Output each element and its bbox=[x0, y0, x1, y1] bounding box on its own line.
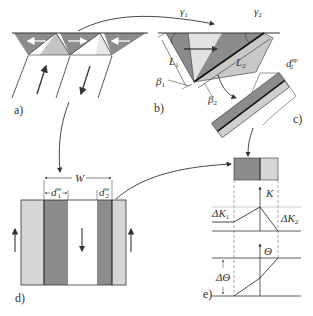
wall-phase-1 bbox=[44, 200, 68, 285]
svg-text:ΔK2: ΔK2 bbox=[280, 212, 299, 226]
W-label: W bbox=[75, 172, 85, 184]
panel-d-label: d) bbox=[15, 291, 25, 305]
dK2-label: ΔK bbox=[280, 212, 295, 224]
svg-text:β2: β2 bbox=[207, 93, 217, 107]
svg-text:dw2: dw2 bbox=[99, 185, 111, 200]
svg-text:L1: L1 bbox=[168, 55, 179, 69]
L1-label: L bbox=[168, 55, 175, 67]
panel-d: W dw1 dw2 d) bbox=[15, 172, 131, 305]
e-phase-dark bbox=[234, 158, 260, 180]
wall-phase-2 bbox=[97, 200, 112, 285]
panel-a-label: a) bbox=[14, 103, 23, 117]
panel-c-label: c) bbox=[293, 112, 302, 126]
svg-text:ΔK1: ΔK1 bbox=[211, 207, 230, 221]
arrow-c-to-e bbox=[248, 128, 253, 156]
panel-e-label: e) bbox=[203, 287, 212, 301]
L2-label: L bbox=[235, 56, 242, 68]
dK1-label: ΔK bbox=[211, 207, 226, 219]
Theta-axis-label: Θ bbox=[264, 245, 272, 257]
panel-e: K ΔK1 ΔK2 Θ ΔΘ e) bbox=[203, 158, 301, 301]
arrow-a-to-d bbox=[59, 102, 69, 172]
svg-text:dsp2: dsp2 bbox=[286, 56, 298, 71]
svg-text:β1: β1 bbox=[155, 75, 165, 89]
arrow-a-to-b bbox=[78, 16, 214, 31]
svg-text:dw1: dw1 bbox=[51, 185, 63, 200]
svg-text:γ2: γ2 bbox=[254, 5, 262, 19]
diagram-canvas: a) γ1 γ2 L1 L2 β1 β2 b) bbox=[0, 0, 313, 316]
arrow-b-to-c bbox=[218, 75, 236, 98]
e-phase-light bbox=[260, 158, 278, 180]
arrow-d-to-e bbox=[116, 164, 231, 199]
panel-a: a) bbox=[12, 33, 148, 117]
svg-text:γ1: γ1 bbox=[180, 5, 188, 19]
dTheta-label: ΔΘ bbox=[215, 271, 230, 283]
K-axis-label: K bbox=[265, 187, 274, 199]
panel-b-label: b) bbox=[154, 101, 164, 115]
phase-band-dark bbox=[211, 73, 284, 132]
